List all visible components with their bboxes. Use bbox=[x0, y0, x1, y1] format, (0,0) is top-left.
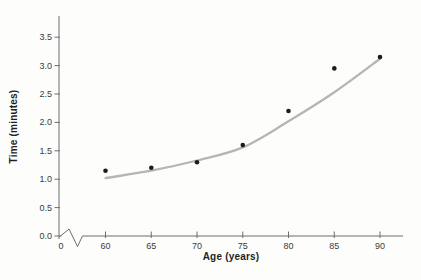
plot-canvas: 6065707580859000.00.51.01.52.02.53.03.5 bbox=[0, 0, 421, 280]
y-tick-label: 0.5 bbox=[39, 203, 52, 213]
data-point bbox=[195, 160, 200, 165]
y-axis-title: Time (minutes) bbox=[8, 82, 21, 172]
fitted-curve bbox=[106, 59, 381, 178]
x-origin-label: 0 bbox=[58, 241, 63, 251]
x-tick-label: 75 bbox=[238, 241, 248, 251]
data-point bbox=[286, 109, 291, 114]
y-tick-label: 1.0 bbox=[39, 174, 52, 184]
scatter-plot-figure: 6065707580859000.00.51.01.52.02.53.03.5 … bbox=[0, 0, 421, 280]
y-tick-label: 3.0 bbox=[39, 61, 52, 71]
y-tick-label: 0.0 bbox=[39, 231, 52, 241]
x-tick-label: 70 bbox=[192, 241, 202, 251]
x-axis-break-icon bbox=[61, 229, 83, 247]
data-point bbox=[241, 143, 246, 148]
x-tick-label: 60 bbox=[100, 241, 110, 251]
x-axis-title: Age (years) bbox=[171, 251, 291, 264]
y-tick-label: 3.5 bbox=[39, 32, 52, 42]
data-point bbox=[103, 168, 108, 173]
x-tick-label: 85 bbox=[329, 241, 339, 251]
y-tick-label: 1.5 bbox=[39, 146, 52, 156]
data-point bbox=[149, 166, 154, 171]
x-tick-label: 80 bbox=[283, 241, 293, 251]
y-tick-label: 2.5 bbox=[39, 89, 52, 99]
y-tick-label: 2.0 bbox=[39, 117, 52, 127]
x-tick-label: 90 bbox=[375, 241, 385, 251]
data-point bbox=[332, 66, 337, 71]
data-point bbox=[378, 55, 383, 60]
x-tick-label: 65 bbox=[146, 241, 156, 251]
